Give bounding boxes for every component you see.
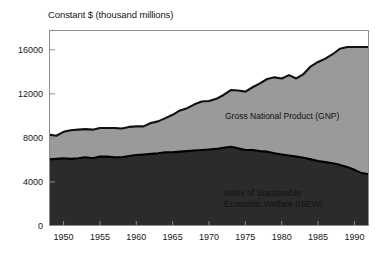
x-tick-label: 1960 bbox=[126, 232, 146, 242]
isew-label-line2: Economic Welfare (ISEW) bbox=[224, 199, 323, 210]
x-tick-label: 1965 bbox=[163, 232, 183, 242]
x-tick-label: 1980 bbox=[272, 232, 292, 242]
x-tick-label: 1990 bbox=[344, 232, 364, 242]
x-tick-label: 1975 bbox=[235, 232, 255, 242]
x-tick-label: 1950 bbox=[54, 232, 74, 242]
y-axis-tick-labels: 0400080001200016000 bbox=[0, 0, 43, 261]
series-label-isew: Index of Sustainable Economic Welfare (I… bbox=[224, 188, 323, 209]
isew-label-line1: Index of Sustainable bbox=[224, 188, 323, 199]
x-tick-label: 1955 bbox=[90, 232, 110, 242]
y-tick-label: 12000 bbox=[18, 89, 43, 99]
y-tick-label: 0 bbox=[38, 221, 43, 231]
y-tick-label: 8000 bbox=[23, 133, 43, 143]
chart-figure: Constant $ (thousand millions) 040008000… bbox=[0, 0, 384, 261]
series-label-gnp: Gross National Product (GNP) bbox=[225, 111, 339, 122]
chart-axis-title: Constant $ (thousand millions) bbox=[48, 9, 173, 20]
y-tick-label: 4000 bbox=[23, 177, 43, 187]
x-tick-label: 1985 bbox=[308, 232, 328, 242]
y-tick-label: 16000 bbox=[18, 45, 43, 55]
gnp-label-text: Gross National Product (GNP) bbox=[225, 111, 339, 121]
x-tick-label: 1970 bbox=[199, 232, 219, 242]
